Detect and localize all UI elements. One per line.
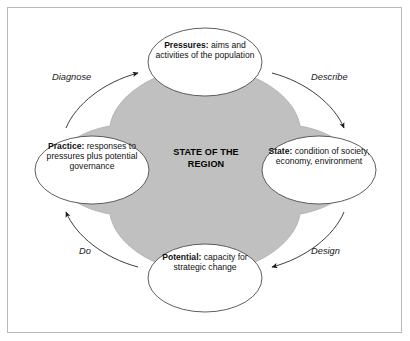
process-label-describe: Describe <box>311 72 348 82</box>
ellipse-state <box>262 136 376 204</box>
ellipse-practice <box>35 136 149 204</box>
center-label-line1: STATE OF THE <box>173 147 239 157</box>
ellipse-pressures <box>148 28 262 96</box>
center-label: STATE OF THE REGION <box>148 146 264 170</box>
figure-container: STATE OF THE REGION Pressures: aims and … <box>0 0 410 341</box>
center-label-line2: REGION <box>188 159 224 169</box>
ellipse-potential <box>148 244 262 312</box>
process-label-diagnose: Diagnose <box>52 72 91 82</box>
process-label-design: Design <box>311 246 340 256</box>
cycle-diagram <box>0 0 410 341</box>
process-label-do: Do <box>79 246 91 256</box>
